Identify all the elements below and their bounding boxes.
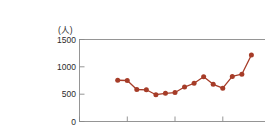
x-tick-label-2015: 2015 [261, 126, 265, 127]
line-chart-figure: (人) 1500 1000 500 0 [40, 16, 225, 111]
plot-area-frame [80, 40, 266, 122]
data-point-2006 [182, 85, 187, 90]
data-point-2000 [125, 78, 130, 83]
x-axis-ticks [80, 117, 266, 122]
x-tick-label-2005: 2005 [166, 126, 185, 127]
data-point-2009 [211, 82, 216, 87]
data-point-2007 [192, 81, 197, 86]
x-tick-label-1995: 1995 [70, 126, 89, 127]
y-tick-label-0: 0 [71, 117, 76, 127]
data-point-1999 [115, 78, 120, 83]
data-point-2005 [173, 90, 178, 95]
data-point-2002 [144, 87, 149, 92]
data-point-2010 [220, 86, 225, 91]
screenshot-root: (人) 1500 1000 500 0 [0, 0, 265, 127]
x-axis-tick-labels: 1995 2000 2005 2010 2015 [70, 126, 265, 127]
data-point-2011 [230, 74, 235, 79]
data-point-2001 [134, 87, 139, 92]
x-tick-label-2000: 2000 [118, 126, 137, 127]
y-tick-label-1000: 1000 [57, 62, 76, 72]
y-axis-ticks [80, 40, 85, 122]
chart-canvas: (人) 1500 1000 500 0 [40, 16, 265, 127]
data-point-2003 [153, 92, 158, 97]
y-axis-tick-labels: 1500 1000 500 0 [57, 35, 76, 127]
data-point-2013 [249, 53, 254, 58]
y-tick-label-500: 500 [62, 89, 76, 99]
data-point-2012 [239, 72, 244, 77]
data-point-2008 [201, 74, 206, 79]
series-markers-group [115, 53, 254, 98]
y-tick-label-1500: 1500 [57, 35, 76, 45]
x-tick-label-2010: 2010 [213, 126, 232, 127]
data-point-2004 [163, 91, 168, 96]
y-axis-unit-label: (人) [58, 25, 73, 35]
